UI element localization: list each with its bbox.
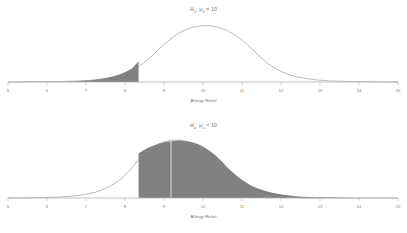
tick-label: 10 (201, 204, 206, 209)
figure-root: H0: μ0 = 10 (0, 0, 407, 233)
tick-label: 11 (240, 88, 245, 93)
chart-panel-null: H0: μ0 = 10 (0, 0, 407, 116)
tick-label: 15 (396, 204, 401, 209)
tick-label: 9 (163, 204, 166, 209)
tick-label: 12 (279, 204, 284, 209)
tick-label: 9 (163, 88, 166, 93)
tick-label: 5 (7, 204, 10, 209)
tick-label: 10 (201, 88, 206, 93)
tick-label: 6 (46, 204, 49, 209)
tick-label: 13 (318, 88, 323, 93)
x-axis-label-null: Allergy Relief (0, 98, 407, 103)
tick-label: 14 (357, 88, 362, 93)
tick-label: 13 (318, 204, 323, 209)
curve-null-distribution (8, 26, 398, 82)
tick-label: 5 (7, 88, 10, 93)
tick-label: 12 (279, 88, 284, 93)
x-axis-ticks (8, 198, 398, 201)
tick-label: 6 (46, 88, 49, 93)
x-axis-tick-labels: 5 6 7 8 9 10 11 12 13 14 15 (7, 204, 401, 209)
tick-label: 8 (124, 204, 127, 209)
tick-label: 15 (396, 88, 401, 93)
tick-label: 7 (85, 204, 88, 209)
shaded-region-left-tail (8, 61, 139, 82)
x-axis-tick-labels: 5 6 7 8 9 10 11 12 13 14 15 (7, 88, 401, 93)
tick-label: 8 (124, 88, 127, 93)
tick-label: 11 (240, 204, 245, 209)
tick-label: 7 (85, 88, 88, 93)
chart-panel-alternative: Ha: μa < 10 (0, 116, 407, 232)
tick-label: 14 (357, 204, 362, 209)
x-axis-ticks (8, 82, 398, 85)
x-axis-label-alternative: Allergy Relief (0, 214, 407, 219)
